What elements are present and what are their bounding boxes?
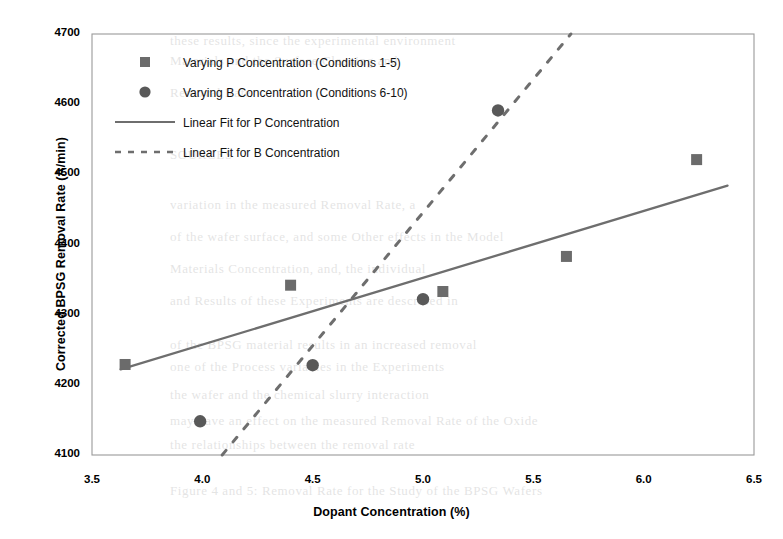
y-tick-label: 4700 [20, 26, 80, 38]
data-point-square [561, 251, 572, 262]
y-axis-title: Corrected BPSG Removal Rate (A/min) [54, 137, 68, 371]
y-tick-label: 4400 [20, 237, 80, 249]
y-tick-label: 4600 [20, 96, 80, 108]
data-point-circle [492, 104, 504, 116]
x-tick-label: 3.5 [62, 473, 122, 485]
legend-label: Linear Fit for P Concentration [183, 116, 340, 130]
x-tick-label: 5.0 [393, 473, 453, 485]
data-point-circle [306, 359, 318, 371]
plot-canvas: Varying P Concentration (Conditions 1-5)… [0, 0, 783, 539]
data-point-square [120, 359, 131, 370]
chart-legend: Varying P Concentration (Conditions 1-5)… [115, 56, 408, 160]
data-point-square [437, 286, 448, 297]
fit-line [121, 186, 728, 370]
data-point-square [285, 280, 296, 291]
legend-label: Varying B Concentration (Conditions 6-10… [183, 86, 408, 100]
data-point-square [691, 154, 702, 165]
legend-marker-circle [139, 86, 150, 97]
y-tick-label: 4100 [20, 447, 80, 459]
scatter-chart: Varying P Concentration (Conditions 1-5)… [0, 0, 783, 539]
legend-label: Linear Fit for B Concentration [183, 146, 340, 160]
y-tick-label: 4300 [20, 307, 80, 319]
legend-marker-square [140, 57, 150, 67]
x-tick-label: 4.0 [172, 473, 232, 485]
data-point-circle [417, 293, 429, 305]
x-tick-label: 6.0 [614, 473, 674, 485]
x-axis-title: Dopant Concentration (%) [0, 505, 783, 519]
legend-label: Varying P Concentration (Conditions 1-5) [183, 56, 401, 70]
y-tick-label: 4200 [20, 377, 80, 389]
data-point-circle [194, 415, 206, 427]
x-tick-label: 6.5 [724, 473, 783, 485]
x-tick-label: 5.5 [503, 473, 563, 485]
y-tick-label: 4500 [20, 166, 80, 178]
x-tick-label: 4.5 [283, 473, 343, 485]
y-axis-title-container: Corrected BPSG Removal Rate (A/min) [51, 44, 69, 464]
